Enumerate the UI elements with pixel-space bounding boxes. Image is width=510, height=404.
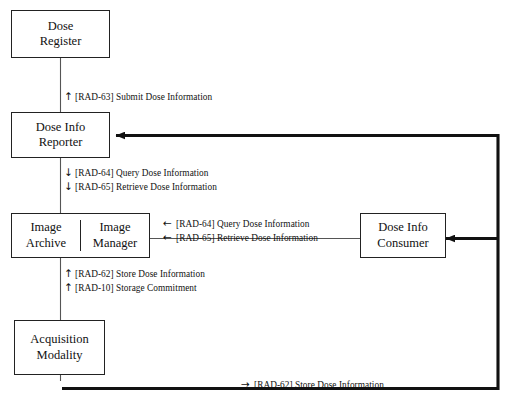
node-dose-info-reporter[interactable]: Dose InfoReporter — [11, 112, 110, 158]
node-image-archive-manager: ImageArchive ImageManager — [11, 213, 150, 258]
edge-label-retrieve-dose-down: ↓[RAD-65] Retrieve Dose Information — [64, 180, 217, 194]
arrow-down-icon: ↓ — [64, 166, 75, 179]
node-image-archive[interactable]: ImageArchive — [12, 220, 81, 251]
edge-label-query-dose-down-text: [RAD-64] Query Dose Information — [75, 168, 208, 178]
arrow-down-icon: ↓ — [64, 180, 75, 193]
edge-label-retrieve-dose-down-text: [RAD-65] Retrieve Dose Information — [75, 182, 217, 192]
arrow-right-icon: → — [241, 378, 254, 391]
edge-label-query-dose-left: ←[RAD-64] Query Dose Information — [163, 217, 309, 231]
edge-label-storage-commitment-up: ↑[RAD-10] Storage Commitment — [64, 281, 197, 295]
edge-label-retrieve-dose-left-text: [RAD-65] Retrieve Dose Information — [176, 233, 318, 243]
arrow-up-icon: ↑ — [64, 90, 75, 103]
arrow-up-icon: ↑ — [64, 267, 75, 280]
node-image-archive-label: ImageArchive — [24, 220, 68, 251]
node-dose-register-label: DoseRegister — [38, 19, 84, 50]
diagram-canvas: DoseRegister Dose InfoReporter ImageArch… — [0, 0, 510, 404]
arrow-left-icon: ← — [163, 231, 176, 244]
edge-label-query-dose-down: ↓[RAD-64] Query Dose Information — [64, 166, 208, 180]
arrow-left-icon: ← — [163, 217, 176, 230]
edge-label-store-dose-right: →[RAD-62] Store Dose Information — [241, 378, 384, 392]
edge-label-store-dose-up-text: [RAD-62] Store Dose Information — [75, 269, 205, 279]
edge-label-store-dose-right-text: [RAD-62] Store Dose Information — [254, 380, 384, 390]
edge-label-submit-dose-text: [RAD-63] Submit Dose Information — [75, 92, 212, 102]
node-image-manager-label: ImageManager — [91, 220, 139, 251]
edge-label-submit-dose: ↑[RAD-63] Submit Dose Information — [64, 90, 212, 104]
node-dose-info-consumer[interactable]: Dose InfoConsumer — [360, 213, 446, 258]
node-dose-register[interactable]: DoseRegister — [11, 10, 110, 58]
edge-label-store-dose-up: ↑[RAD-62] Store Dose Information — [64, 267, 205, 281]
edge-label-query-dose-left-text: [RAD-64] Query Dose Information — [176, 219, 309, 229]
node-acquisition-modality-label: AcquisitionModality — [28, 332, 90, 363]
node-dose-info-consumer-label: Dose InfoConsumer — [375, 220, 430, 251]
edge-label-storage-commitment-up-text: [RAD-10] Storage Commitment — [75, 283, 197, 293]
edge-label-retrieve-dose-left: ←[RAD-65] Retrieve Dose Information — [163, 231, 318, 245]
node-dose-info-reporter-label: Dose InfoReporter — [34, 120, 88, 151]
node-acquisition-modality[interactable]: AcquisitionModality — [14, 320, 105, 375]
node-image-manager[interactable]: ImageManager — [81, 220, 149, 251]
arrow-up-icon: ↑ — [64, 281, 75, 294]
